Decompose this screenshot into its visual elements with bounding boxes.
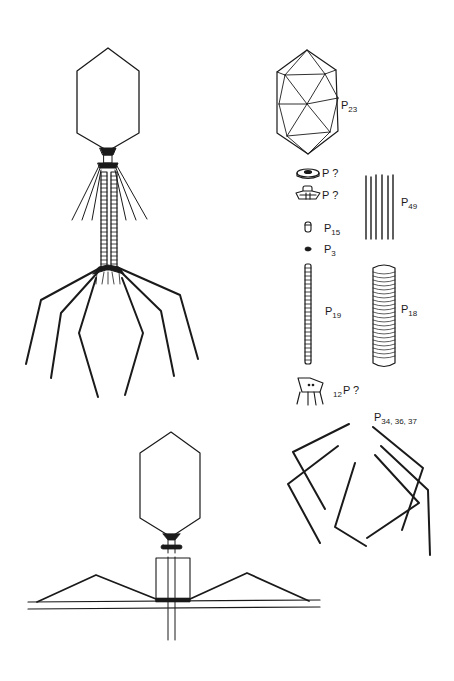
label-collar-disc: P ? — [322, 168, 338, 179]
baseplate-component — [297, 378, 323, 405]
collar — [98, 163, 118, 168]
label-collar-hub: P ? — [322, 190, 338, 201]
contracted-phage — [28, 432, 320, 640]
tail-sheath-component — [373, 265, 395, 367]
tail-pins — [96, 272, 120, 284]
contracted-sheath — [156, 558, 190, 601]
intact-phage — [26, 48, 198, 397]
contracted-head — [140, 432, 200, 537]
label-p3: P3 — [324, 244, 336, 259]
phage-head — [77, 48, 139, 151]
head-icosahedron — [277, 50, 338, 154]
label-p49: P49 — [401, 197, 417, 212]
loose-tail-fibers — [288, 424, 430, 555]
collar-disc — [297, 169, 319, 179]
cell-wall-inner — [28, 607, 320, 609]
core-plug — [305, 222, 311, 232]
label-tail-fibers: P34, 36, 37 — [374, 412, 417, 427]
collar-hub — [296, 186, 320, 199]
tail-fibers — [26, 268, 198, 397]
label-baseplate: 12P ? — [333, 385, 359, 400]
contracted-collar — [161, 545, 182, 549]
label-p18: P18 — [401, 304, 417, 319]
contracted-fiber-right — [190, 573, 309, 601]
contracted-fiber-left — [37, 575, 156, 602]
phage-diagram — [0, 0, 454, 681]
neck — [100, 148, 116, 155]
core-end — [305, 247, 311, 251]
tail-sheath — [101, 172, 117, 267]
label-p19: P19 — [325, 306, 341, 321]
label-p15: P15 — [324, 223, 340, 238]
tail-core — [305, 264, 311, 364]
whisker-fibers — [366, 175, 393, 239]
whiskers — [72, 166, 147, 220]
label-p23: P23 — [341, 100, 357, 115]
